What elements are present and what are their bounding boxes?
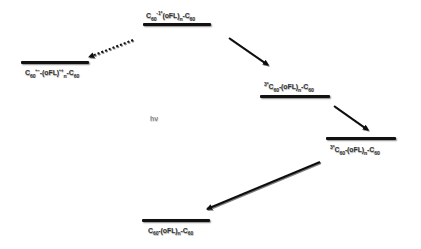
excitation-label: hν <box>150 115 158 122</box>
level-triplet-lower <box>326 137 396 140</box>
triplet-transfer-arrow <box>334 106 368 130</box>
label-charge-separated: C60•−-(oFL)•+n-C60 <box>25 67 79 79</box>
decay-arrow <box>207 162 320 209</box>
label-ground: C60-(oFL)n-C60 <box>148 227 193 236</box>
level-charge-separated <box>21 61 89 64</box>
charge-separation-arrow <box>89 40 133 57</box>
label-triplet-lower: 3*C60-(oFL)n-C60 <box>330 144 380 156</box>
arrows-layer <box>0 0 421 249</box>
label-triplet-upper: 3*C60-(oFL)n-C60 <box>264 81 314 93</box>
energy-level-diagram: C60-1*(oFL)n-C60 C60•−-(oFL)•+n-C60 3*C6… <box>0 0 421 249</box>
level-ground <box>142 219 210 222</box>
level-triplet-upper <box>260 95 330 98</box>
label-excited-singlet: C60-1*(oFL)n-C60 <box>146 10 195 22</box>
level-excited-singlet <box>143 23 211 26</box>
isc-arrow <box>229 38 268 65</box>
